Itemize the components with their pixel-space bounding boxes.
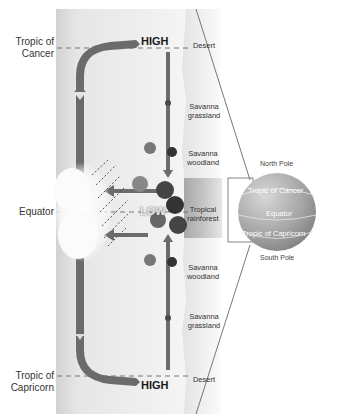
globe-tropic-of-cancer-label: Tropic of Cancer <box>248 186 303 195</box>
globe-equator-label: Equator <box>266 209 292 218</box>
biome-tropical-rainforest: Tropical rainforest <box>184 206 222 223</box>
globe-tropic-of-capricorn-label: Tropic of Capricorn <box>242 229 306 238</box>
high-pressure-south: HIGH <box>141 379 169 391</box>
equator-label: Equator <box>0 206 54 218</box>
high-pressure-north: HIGH <box>141 35 169 47</box>
biome-savanna-woodland-south: Savanna woodland <box>184 264 222 281</box>
rain-cloud <box>52 162 112 262</box>
biome-savanna-grassland-south: Savanna grassland <box>186 313 222 330</box>
tropic-of-cancer-label: Tropic of Cancer <box>0 36 54 60</box>
biome-savanna-woodland-north: Savanna woodland <box>184 150 222 167</box>
biome-savanna-grassland-north: Savanna grassland <box>186 103 222 120</box>
globe-south-pole-label: South Pole <box>260 254 294 261</box>
low-pressure-equator: LOW <box>140 205 166 217</box>
globe-north-pole-label: North Pole <box>260 160 293 167</box>
tropic-of-capricorn-label: Tropic of Capricorn <box>0 370 54 394</box>
biome-desert-north: Desert <box>188 42 220 51</box>
biome-desert-south: Desert <box>188 376 220 385</box>
